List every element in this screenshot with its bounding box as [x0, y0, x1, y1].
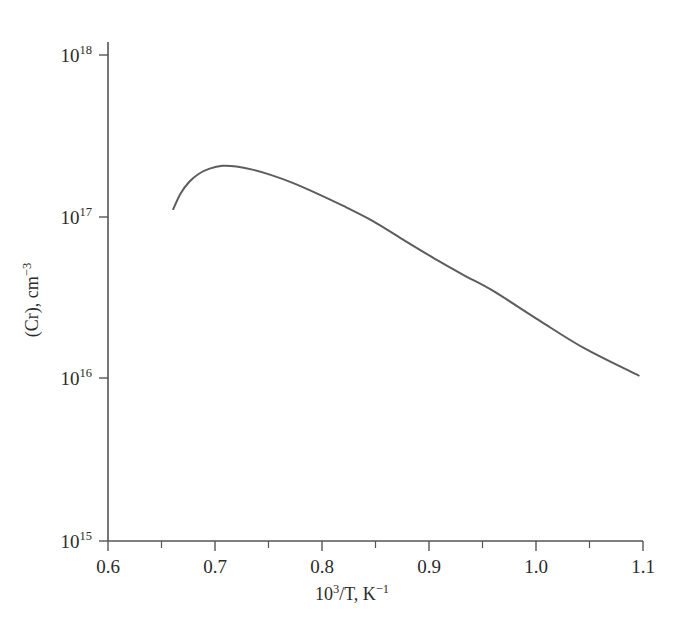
x-tick-label-1.0: 1.0	[524, 556, 548, 577]
y-axis-tick-labels: 1018 1017 1016 1015	[61, 43, 93, 552]
x-axis-tick-labels: 0.6 0.7 0.8 0.9 1.0 1.1	[96, 556, 655, 577]
x-axis-label: 103/T, K−1	[315, 582, 389, 604]
y-tick-label-1e17: 1017	[61, 205, 93, 228]
y-tick-label-1e18: 1018	[61, 43, 93, 66]
x-tick-label-0.6: 0.6	[96, 556, 120, 577]
x-tick-label-1.1: 1.1	[631, 556, 655, 577]
y-tick-label-1e16: 1016	[61, 366, 93, 389]
x-tick-label-0.7: 0.7	[203, 556, 227, 577]
y-tick-label-1e15: 1015	[61, 529, 93, 552]
chart-figure: 1018 1017 1016 1015 0.6 0.7 0.8 0	[0, 0, 679, 625]
x-tick-label-0.9: 0.9	[417, 556, 441, 577]
x-tick-label-0.8: 0.8	[310, 556, 334, 577]
data-series-curve	[173, 166, 638, 376]
y-axis-label: (Cr), cm−3	[20, 263, 43, 337]
y-axis-ticks	[99, 55, 108, 541]
x-axis-minor-ticks	[162, 541, 590, 548]
chart-svg: 1018 1017 1016 1015 0.6 0.7 0.8 0	[0, 0, 679, 625]
